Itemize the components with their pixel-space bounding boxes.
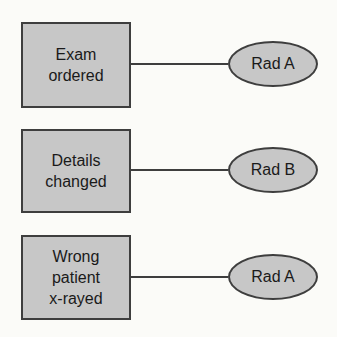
connector-line	[131, 63, 228, 65]
event-box-exam-ordered: Exam ordered	[21, 22, 131, 108]
event-box-wrong-patient-xrayed: Wrong patient x-rayed	[21, 235, 131, 320]
event-box-details-changed: Details changed	[21, 129, 131, 213]
cause-map-diagram: Exam ordered Rad A Details changed Rad B…	[0, 0, 337, 337]
radiologist-node: Rad B	[228, 147, 318, 193]
connector-line	[131, 276, 228, 278]
connector-line	[131, 169, 228, 171]
radiologist-node: Rad A	[228, 41, 318, 87]
radiologist-node: Rad A	[228, 254, 318, 300]
